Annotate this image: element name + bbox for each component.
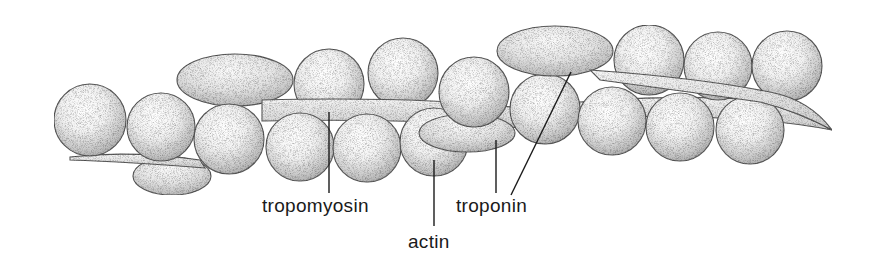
thin-filament-diagram bbox=[0, 0, 877, 270]
actin-monomer bbox=[439, 57, 509, 127]
tropomyosin-label: tropomyosin bbox=[262, 196, 369, 215]
actin-monomer bbox=[127, 93, 195, 161]
actin-monomer bbox=[333, 114, 401, 182]
actin-monomer bbox=[646, 93, 714, 161]
actin-label: actin bbox=[408, 232, 450, 251]
actin-monomer bbox=[54, 84, 126, 156]
actin-monomer bbox=[510, 74, 580, 144]
actin-monomer bbox=[194, 104, 264, 174]
troponin-complex-upper-left bbox=[177, 54, 293, 106]
actin-monomer bbox=[578, 87, 646, 155]
troponin-complex-upper-right bbox=[497, 26, 613, 76]
actin-monomer bbox=[266, 113, 334, 181]
actin-monomer bbox=[368, 38, 438, 108]
troponin-label: troponin bbox=[456, 196, 527, 215]
